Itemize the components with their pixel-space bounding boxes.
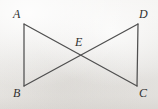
geometry-figure: A B C D E [0,0,158,109]
vertex-label-d: D [139,8,148,20]
figure-canvas [0,0,158,109]
segment-group [24,24,138,86]
vertex-label-a: A [13,8,20,20]
vertex-label-e: E [75,36,82,48]
vertex-label-c: C [139,87,147,99]
vertex-label-b: B [13,87,20,99]
segment-dc [137,24,138,86]
